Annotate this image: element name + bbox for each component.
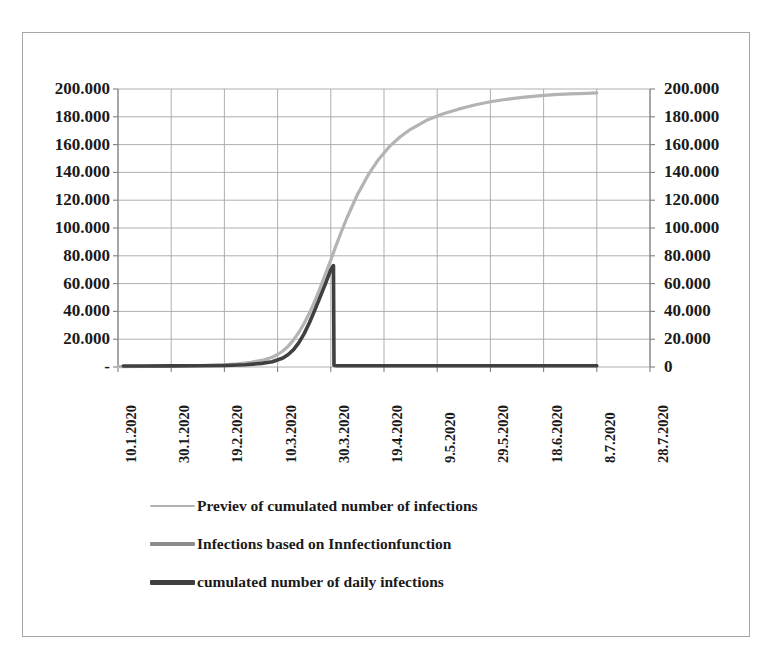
legend-swatch-icon (150, 542, 195, 546)
legend-label: cumulated number of daily infections (197, 573, 444, 591)
y-axis-right-tick-label: 120.000 (664, 191, 719, 208)
y-axis-left-tick-label: 120.000 (25, 191, 110, 208)
x-axis-tick-label: 30.3.2020 (337, 405, 352, 463)
y-axis-right-tick-label: 60.000 (664, 275, 711, 292)
y-axis-left-tick-label: 140.000 (25, 163, 110, 180)
legend-item: Previev of cumulated number of infection… (150, 487, 610, 525)
x-axis-tick-label: 10.1.2020 (124, 405, 139, 463)
y-axis-right-tick-label: 40.000 (664, 302, 711, 319)
legend-label: Previev of cumulated number of infection… (197, 497, 478, 515)
x-axis-tick-label: 18.6.2020 (550, 405, 565, 463)
y-axis-right-tick-label: 200.000 (664, 80, 719, 97)
legend-label: Infections based on Innfectionfunction (197, 535, 452, 553)
x-axis-tick-label: 10.3.2020 (284, 405, 299, 463)
y-axis-right-tick-label: 100.000 (664, 219, 719, 236)
y-axis-left-tick-label: 160.000 (25, 136, 110, 153)
y-axis-left-tick-label: 180.000 (25, 108, 110, 125)
legend-item: cumulated number of daily infections (150, 563, 610, 601)
x-axis-tick-label: 30.1.2020 (177, 405, 192, 463)
x-axis-tick-label: 9.5.2020 (443, 412, 458, 463)
legend-item: Infections based on Innfectionfunction (150, 525, 610, 563)
y-axis-right-tick-label: 0 (664, 358, 673, 375)
x-axis-tick-label: 28.7.2020 (656, 405, 671, 463)
x-axis-tick-label: 19.4.2020 (390, 405, 405, 463)
x-axis-tick-label: 8.7.2020 (603, 412, 618, 463)
y-axis-left-tick-label: 40.000 (25, 302, 110, 319)
y-axis-left-tick-label: 60.000 (25, 275, 110, 292)
x-axis-tick-label: 29.5.2020 (496, 405, 511, 463)
y-axis-right-tick-label: 180.000 (664, 108, 719, 125)
x-axis-tick-label: 19.2.2020 (230, 405, 245, 463)
y-axis-right-tick-label: 80.000 (664, 247, 711, 264)
y-axis-left-tick-label: 100.000 (25, 219, 110, 236)
legend-swatch-icon (150, 580, 195, 585)
y-axis-right-tick-label: 20.000 (664, 330, 711, 347)
y-axis-right-tick-label: 140.000 (664, 163, 719, 180)
y-axis-left-tick-label: 200.000 (25, 80, 110, 97)
y-axis-left-tick-label: 80.000 (25, 247, 110, 264)
chart-legend: Previev of cumulated number of infection… (150, 487, 610, 601)
y-axis-right-tick-label: 160.000 (664, 136, 719, 153)
y-axis-left-tick-label: - (25, 358, 110, 375)
y-axis-left-tick-label: 20.000 (25, 330, 110, 347)
legend-swatch-icon (150, 505, 195, 507)
